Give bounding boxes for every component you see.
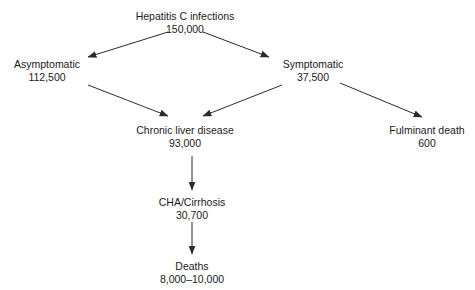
edge-infections-to-symptomatic <box>203 32 269 57</box>
node-cha-cirrhosis: CHA/Cirrhosis 30,700 <box>159 196 226 221</box>
node-value: 93,000 <box>136 137 233 150</box>
edge-asymptomatic-to-chronic-liver-disease <box>88 85 168 116</box>
node-label: Asymptomatic <box>14 58 80 71</box>
node-value: 37,500 <box>283 71 344 84</box>
edge-symptomatic-to-fulminant-death <box>340 83 422 117</box>
node-chronic-liver-disease: Chronic liver disease 93,000 <box>136 124 233 149</box>
node-label: Chronic liver disease <box>136 124 233 137</box>
node-asymptomatic: Asymptomatic 112,500 <box>14 58 80 83</box>
node-label: Deaths <box>160 260 224 273</box>
node-hepatitis-c-infections: Hepatitis C infections 150,000 <box>136 10 235 35</box>
node-label: Hepatitis C infections <box>136 10 235 23</box>
node-deaths: Deaths 8,000–10,000 <box>160 260 224 285</box>
hepatitis-c-flow-diagram: Hepatitis C infections 150,000 Asymptoma… <box>0 0 475 290</box>
node-label: CHA/Cirrhosis <box>159 196 226 209</box>
node-value: 30,700 <box>159 209 226 222</box>
node-value: 600 <box>389 137 464 150</box>
node-label: Fulminant death <box>389 124 464 137</box>
node-value: 8,000–10,000 <box>160 273 224 286</box>
node-label: Symptomatic <box>283 58 344 71</box>
edge-infections-to-asymptomatic <box>88 32 168 57</box>
node-value: 150,000 <box>136 23 235 36</box>
node-value: 112,500 <box>14 71 80 84</box>
edge-symptomatic-to-chronic-liver-disease <box>203 85 282 116</box>
node-symptomatic: Symptomatic 37,500 <box>283 58 344 83</box>
node-fulminant-death: Fulminant death 600 <box>389 124 464 149</box>
